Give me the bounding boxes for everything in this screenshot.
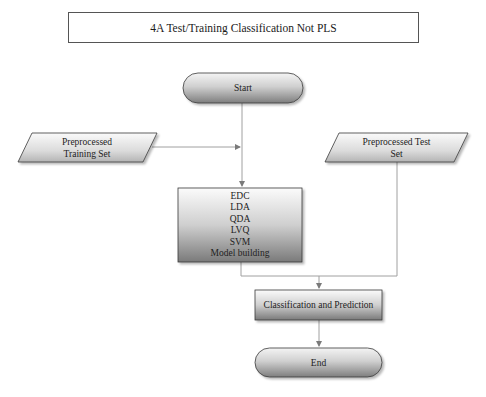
training-set-node: Preprocessed Training Set xyxy=(22,133,152,162)
classification-node: Classification and Prediction xyxy=(255,290,382,320)
model-item-lvq: LVQ xyxy=(231,225,250,237)
test-set-label-line1: Preprocessed Test xyxy=(362,136,430,148)
edge-models-to-join xyxy=(241,262,319,276)
test-set-label-line2: Set xyxy=(390,148,402,160)
end-label: End xyxy=(311,357,326,369)
model-item-qda: QDA xyxy=(230,214,251,226)
models-node: EDC LDA QDA LVQ SVM Model building xyxy=(178,188,302,262)
start-node: Start xyxy=(183,73,303,103)
test-set-node: Preprocessed Test Set xyxy=(330,133,463,162)
start-label: Start xyxy=(234,82,252,94)
model-item-edc: EDC xyxy=(231,191,250,203)
training-set-label-line1: Preprocessed xyxy=(62,136,112,148)
model-item-model-building: Model building xyxy=(211,248,270,260)
classification-label: Classification and Prediction xyxy=(264,299,374,311)
model-item-svm: SVM xyxy=(230,237,251,249)
training-set-label-line2: Training Set xyxy=(64,148,111,160)
end-node: End xyxy=(255,348,382,377)
edge-test-to-classification xyxy=(319,162,397,276)
model-item-lda: LDA xyxy=(230,202,250,214)
